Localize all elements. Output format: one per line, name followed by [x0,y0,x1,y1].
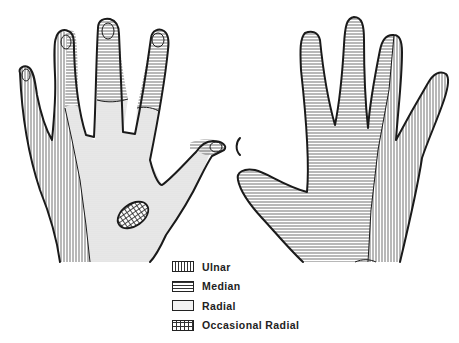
palmar-thumb-fragment [237,138,240,155]
dorsal-median-ring [65,30,78,108]
horizontal-lines-swatch-icon [172,281,194,292]
legend-item-ulnar: Ulnar [172,257,299,277]
legend-label: Occasional Radial [202,319,299,331]
vertical-lines-swatch-icon [172,261,194,272]
crosshatch-swatch-icon [172,320,194,331]
palmar-hand [238,17,448,262]
legend-label: Ulnar [202,261,231,273]
legend-item-median: Median [172,277,299,297]
stipple-swatch-icon [172,300,194,311]
legend-item-radial: Radial [172,296,299,316]
legend-label: Median [202,280,241,292]
dorsal-hand [20,19,240,262]
legend-label: Radial [202,300,236,312]
legend-item-occasional-radial: Occasional Radial [172,316,299,336]
legend: Ulnar Median Radial Occasional Radial [172,257,299,335]
